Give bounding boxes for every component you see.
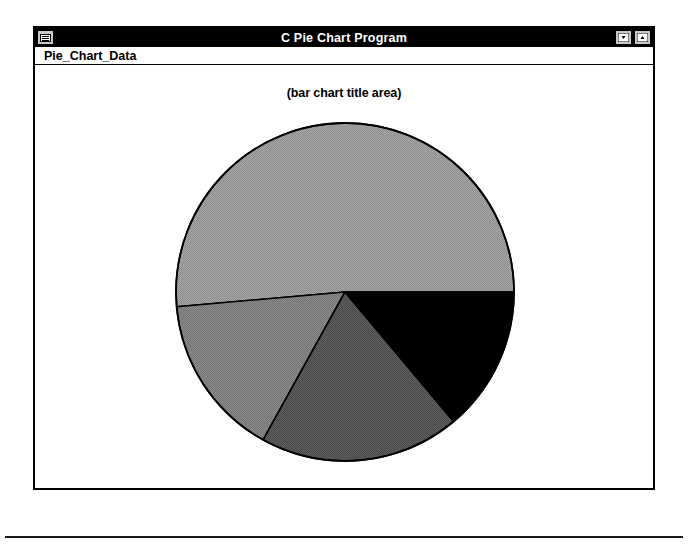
title-bar[interactable]: C Pie Chart Program — [35, 28, 653, 47]
window-title: C Pie Chart Program — [281, 31, 407, 45]
menu-bar: Pie_Chart_Data — [35, 47, 653, 65]
application-window: C Pie Chart Program Pie_Chart_Data (bar … — [33, 26, 655, 490]
page-divider-rule — [5, 536, 683, 538]
system-menu-glyph — [40, 34, 51, 42]
minimize-icon — [618, 33, 629, 42]
chart-canvas: (bar chart title area) — [35, 65, 653, 486]
pie-slice-1 — [176, 123, 514, 307]
pie-slice-group — [176, 123, 514, 461]
window-controls — [615, 30, 651, 45]
menu-item-pie-chart-data[interactable]: Pie_Chart_Data — [38, 48, 142, 64]
minimize-button[interactable] — [615, 30, 632, 45]
maximize-button[interactable] — [634, 30, 651, 45]
maximize-icon — [637, 33, 648, 42]
pie-chart — [35, 65, 653, 486]
system-menu-icon[interactable] — [37, 30, 54, 45]
